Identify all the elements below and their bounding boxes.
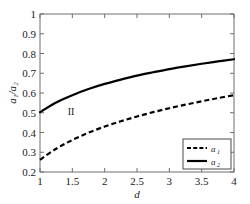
y-axis-title-text: a₁/a₂ [6, 82, 18, 104]
y-tick-label: 0.5 [22, 107, 36, 119]
y-tick-label: 0.4 [22, 127, 36, 139]
legend-label-subscript-2: 2 [217, 162, 220, 168]
y-tick-label: 0.9 [22, 28, 36, 40]
y-tick-label: 0.6 [22, 87, 36, 99]
chart-legend: a1a2 [183, 139, 231, 169]
chart-annotations: II [68, 106, 75, 117]
y-tick-label: 0.7 [22, 67, 36, 79]
x-tick-label: 2.5 [130, 175, 144, 187]
legend-label-2: a [211, 157, 216, 167]
y-axis-title: a₁/a₂ [6, 82, 18, 104]
chart-canvas: 11.522.533.54 0.20.30.40.50.60.70.80.91 … [0, 0, 250, 204]
x-axis-title: d [134, 188, 140, 200]
chart-figure: 11.522.533.54 0.20.30.40.50.60.70.80.91 … [0, 0, 250, 204]
region-label-ii: II [68, 106, 75, 117]
legend-label-1: a [211, 144, 216, 154]
x-tick-label: 3.5 [195, 175, 209, 187]
x-tick-label: 4 [231, 175, 237, 187]
y-tick-label: 1 [31, 8, 37, 20]
y-tick-label: 0.3 [22, 146, 36, 158]
y-tick-label: 0.8 [22, 48, 36, 60]
x-tick-label: 1.5 [65, 175, 79, 187]
x-axis-tick-labels: 11.522.533.54 [37, 175, 237, 187]
y-axis-tick-labels: 0.20.30.40.50.60.70.80.91 [22, 8, 36, 178]
y-tick-label: 0.2 [22, 166, 36, 178]
legend-label-subscript-1: 1 [217, 149, 220, 155]
x-tick-label: 3 [167, 175, 173, 187]
x-tick-label: 2 [102, 175, 108, 187]
legend-box [183, 139, 231, 169]
x-tick-label: 1 [37, 175, 43, 187]
